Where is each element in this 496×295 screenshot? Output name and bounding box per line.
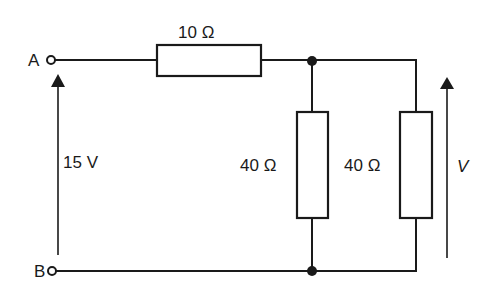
junction-dot-top — [307, 56, 317, 66]
junction-dot-bottom — [307, 266, 317, 276]
circuit-diagram: 10 Ω 40 Ω 40 Ω A B 15 V V — [0, 0, 496, 295]
terminal-a-label: A — [28, 51, 40, 70]
arrow-up-icon — [51, 74, 65, 87]
terminal-b — [48, 267, 56, 275]
resistor-40-ohm-right — [400, 112, 432, 218]
source-voltage-label: 15 V — [63, 153, 99, 172]
arrow-up-icon — [440, 77, 454, 89]
resistor-40-ohm-middle — [297, 112, 328, 218]
output-voltage-label: V — [457, 157, 470, 176]
resistor-10-ohm — [157, 45, 261, 76]
terminal-b-label: B — [34, 262, 45, 281]
resistor-10-ohm-label: 10 Ω — [178, 23, 214, 42]
resistor-40-ohm-middle-label: 40 Ω — [240, 156, 276, 175]
terminal-a — [47, 56, 55, 64]
resistor-40-ohm-right-label: 40 Ω — [344, 156, 380, 175]
